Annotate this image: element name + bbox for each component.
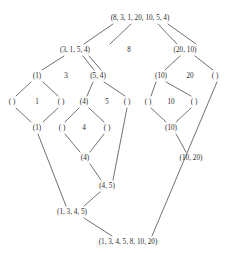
edge-l3a-l4a (16, 82, 31, 96)
node-label-layer: (8, 3, 1, 20, 10, 5, 4) (3, 1, 5, 4) 8 (… (9, 14, 219, 246)
tree-svg: (8, 3, 1, 20, 10, 5, 4) (3, 1, 5, 4) 8 (… (0, 0, 229, 253)
edge-l3d-l4g (151, 82, 156, 96)
node-l5b: ( ) (59, 124, 66, 132)
edge-l2a-l3a (42, 56, 64, 70)
edge-l4i-l5e (176, 108, 191, 122)
node-l4g: ( ) (145, 98, 152, 106)
edge-l5e-l6b (176, 134, 186, 152)
node-l4e: 5 (105, 98, 109, 106)
node-l4c: ( ) (58, 98, 65, 106)
node-l3e: 20 (186, 72, 194, 80)
node-l4a: ( ) (9, 98, 16, 106)
edge-layer (16, 24, 217, 236)
node-l3a: (1) (33, 72, 42, 80)
node-root: (8, 3, 1, 20, 10, 5, 4) (111, 14, 170, 22)
edge-l2c-l3d (165, 56, 180, 70)
node-l4b: 1 (35, 98, 39, 106)
edge-l3c-l4f (104, 82, 125, 96)
edge-l3d-l4i (166, 82, 191, 96)
edge-l5b-l6a (65, 134, 80, 152)
edge-l2c-l3f (195, 56, 213, 70)
node-l3f: ( ) (212, 72, 219, 80)
edge-l3c-l4d (87, 82, 93, 96)
node-l5d: ( ) (104, 124, 111, 132)
edge-root-l2a (84, 24, 113, 44)
node-l8a: (1, 3, 4, 5) (57, 208, 88, 216)
edge-l4a-l5a (16, 108, 31, 122)
edge-l8a-bottom (84, 218, 112, 236)
node-l2b: 8 (127, 46, 131, 54)
edge-root-l2c (158, 24, 177, 44)
node-l4h: 10 (167, 98, 175, 106)
node-l7a: (4, 5) (99, 182, 115, 190)
edge-l2a-l3c (89, 56, 101, 70)
node-l4f: ( ) (124, 98, 131, 106)
node-bottom: (1, 3, 4, 5, 8, 10, 20) (99, 238, 158, 246)
edge-l4d-l5b (65, 108, 79, 122)
node-l3b: 3 (64, 72, 68, 80)
node-l4i: ( ) (191, 98, 198, 106)
edge-l5a-l8a (38, 134, 66, 206)
edge-l5d-l6a (90, 134, 104, 152)
edge-l6a-l7a (90, 164, 101, 180)
edge-root-l2b (110, 24, 131, 44)
node-l3c: (5, 4) (90, 72, 106, 80)
node-l5c: 4 (82, 124, 86, 132)
edge-l4d-l5d (89, 108, 104, 122)
node-l3d: (10) (155, 72, 168, 80)
node-l6a: (4) (81, 154, 90, 162)
node-l2a: (3, 1, 5, 4) (60, 46, 91, 54)
node-l5e: (10) (165, 124, 178, 132)
recursion-tree-diagram: (8, 3, 1, 20, 10, 5, 4) (3, 1, 5, 4) 8 (… (0, 0, 229, 253)
node-l2c: (20, 10) (174, 46, 197, 54)
edge-l4f-l7a (113, 108, 127, 180)
edge-root-l2c-right (168, 24, 196, 44)
edge-l4c-l5a (43, 108, 58, 122)
node-l5a: (1) (33, 124, 42, 132)
edge-l4g-l5e (151, 108, 166, 122)
edge-l2a-l3b (83, 56, 94, 70)
edge-l3a-l4c (43, 82, 58, 96)
edge-l7a-l8a (84, 192, 100, 206)
node-l6b: (10, 20) (180, 154, 203, 162)
node-l4d: (4) (80, 98, 89, 106)
